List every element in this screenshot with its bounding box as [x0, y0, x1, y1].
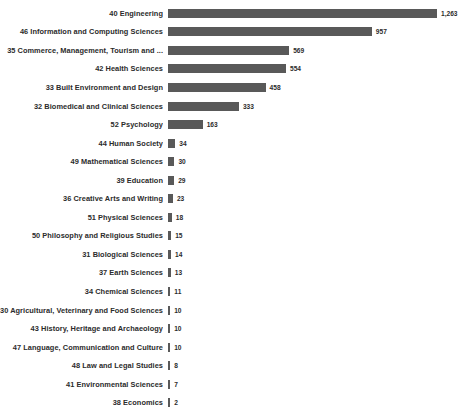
category-label: 35 Commerce, Management, Tourism and ...: [0, 46, 163, 55]
category-label: 50 Philosophy and Religious Studies: [0, 231, 163, 240]
bar-row: 51 Physical Sciences18: [0, 208, 472, 227]
bar: [168, 64, 286, 73]
bar: [168, 213, 172, 222]
category-label: 44 Human Society: [0, 139, 163, 148]
value-label: 458: [270, 83, 281, 92]
bar-row: 41 Environmental Sciences7: [0, 375, 472, 394]
bar-row: 33 Built Environment and Design458: [0, 78, 472, 97]
bar-track: 2: [163, 398, 472, 407]
bar-track: 957: [163, 27, 472, 36]
value-label: 13: [175, 268, 182, 277]
bar-row: 50 Philosophy and Religious Studies15: [0, 227, 472, 246]
bar-track: 554: [163, 64, 472, 73]
bar-row: 43 History, Heritage and Archaeology10: [0, 319, 472, 338]
bar-row: 32 Biomedical and Clinical Sciences333: [0, 97, 472, 116]
bar: [168, 27, 372, 36]
bar-row: 35 Commerce, Management, Tourism and ...…: [0, 41, 472, 60]
bar: [168, 83, 266, 92]
bar-track: 30: [163, 157, 472, 166]
bar-track: 163: [163, 120, 472, 129]
category-label: 32 Biomedical and Clinical Sciences: [0, 102, 163, 111]
bar-row: 52 Psychology163: [0, 115, 472, 134]
value-label: 14: [175, 250, 182, 259]
bar: [168, 343, 170, 352]
bar: [168, 306, 170, 315]
bar-row: 46 Information and Computing Sciences957: [0, 23, 472, 42]
bar-track: 8: [163, 361, 472, 370]
bar: [168, 9, 437, 18]
bar: [168, 157, 174, 166]
value-label: 8: [174, 361, 178, 370]
bar-row: 30 Agricultural, Veterinary and Food Sci…: [0, 301, 472, 320]
bar-track: 18: [163, 213, 472, 222]
bar-track: 569: [163, 46, 472, 55]
category-label: 43 History, Heritage and Archaeology: [0, 324, 163, 333]
category-label: 42 Health Sciences: [0, 64, 163, 73]
bar: [168, 231, 171, 240]
value-label: 15: [175, 231, 182, 240]
value-label: 10: [174, 306, 181, 315]
bar-track: 14: [163, 250, 472, 259]
value-label: 10: [174, 324, 181, 333]
value-label: 34: [179, 139, 186, 148]
value-label: 957: [376, 27, 387, 36]
bar-row: 38 Economics2: [0, 393, 472, 411]
category-label: 39 Education: [0, 176, 163, 185]
bar-track: 7: [163, 380, 472, 389]
category-label: 52 Psychology: [0, 120, 163, 129]
value-label: 11: [174, 287, 181, 296]
bar: [168, 120, 203, 129]
bar: [168, 380, 170, 389]
bar: [168, 324, 170, 333]
bar-track: 10: [163, 324, 472, 333]
value-label: 333: [243, 102, 254, 111]
bar-track: 15: [163, 231, 472, 240]
value-label: 1,263: [441, 9, 458, 18]
category-label: 51 Physical Sciences: [0, 213, 163, 222]
bar-track: 458: [163, 83, 472, 92]
bar: [168, 176, 174, 185]
bar: [168, 102, 239, 111]
value-label: 18: [176, 213, 183, 222]
value-label: 163: [207, 120, 218, 129]
category-label: 36 Creative Arts and Writing: [0, 194, 163, 203]
bar-row: 42 Health Sciences554: [0, 60, 472, 79]
bar-track: 29: [163, 176, 472, 185]
value-label: 23: [177, 194, 184, 203]
bar-track: 23: [163, 194, 472, 203]
value-label: 554: [290, 64, 301, 73]
bar-track: 13: [163, 268, 472, 277]
category-label: 47 Language, Communication and Culture: [0, 343, 163, 352]
bar-row: 40 Engineering1,263: [0, 4, 472, 23]
bar: [168, 250, 171, 259]
bar-row: 48 Law and Legal Studies8: [0, 356, 472, 375]
category-label: 37 Earth Sciences: [0, 268, 163, 277]
bar-row: 39 Education29: [0, 171, 472, 190]
category-label: 33 Built Environment and Design: [0, 83, 163, 92]
category-label: 34 Chemical Sciences: [0, 287, 163, 296]
category-label: 49 Mathematical Sciences: [0, 157, 163, 166]
bar-row: 44 Human Society34: [0, 134, 472, 153]
category-label: 31 Biological Sciences: [0, 250, 163, 259]
bar: [168, 139, 175, 148]
value-label: 569: [293, 46, 304, 55]
bar-row: 49 Mathematical Sciences30: [0, 152, 472, 171]
category-label: 46 Information and Computing Sciences: [0, 27, 163, 36]
bar-track: 10: [163, 306, 472, 315]
value-label: 30: [178, 157, 185, 166]
bar-row: 36 Creative Arts and Writing23: [0, 189, 472, 208]
category-label: 48 Law and Legal Studies: [0, 361, 163, 370]
bar-track: 1,263: [163, 9, 472, 18]
bar-track: 11: [163, 287, 472, 296]
category-label: 40 Engineering: [0, 9, 163, 18]
value-label: 29: [178, 176, 185, 185]
bar-track: 34: [163, 139, 472, 148]
value-label: 10: [174, 343, 181, 352]
bar-row: 31 Biological Sciences14: [0, 245, 472, 264]
bar-row: 34 Chemical Sciences11: [0, 282, 472, 301]
value-label: 2: [174, 398, 178, 407]
bar-row: 47 Language, Communication and Culture10: [0, 338, 472, 357]
bar-track: 333: [163, 102, 472, 111]
bar: [168, 287, 170, 296]
